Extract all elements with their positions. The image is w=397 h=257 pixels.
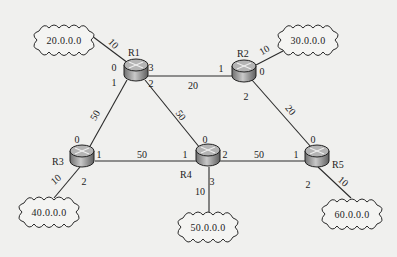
router-label: R4	[180, 169, 192, 180]
link-cost: 20	[188, 80, 198, 91]
router-R4	[196, 144, 220, 166]
network-cloud-50.0.0.0: 50.0.0.0	[178, 212, 238, 243]
network-address: 40.0.0.0	[32, 207, 67, 218]
port-number-R1: 1	[112, 77, 117, 88]
port-number-R4: 3	[210, 176, 215, 187]
port-number-R5: 0	[311, 134, 316, 145]
link-cost: 50	[254, 149, 264, 160]
link-cost: 50	[88, 108, 103, 122]
link-cost: 20	[283, 102, 298, 117]
link-cost: 10	[195, 186, 205, 197]
network-cloud-20.0.0.0: 20.0.0.0	[34, 25, 94, 56]
port-number-R5: 1	[294, 149, 299, 160]
network-address: 60.0.0.0	[335, 209, 370, 220]
network-cloud-40.0.0.0: 40.0.0.0	[19, 197, 79, 228]
networks-layer: 20.0.0.030.0.0.040.0.0.050.0.0.060.0.0.0	[19, 25, 382, 243]
router-label: R5	[332, 159, 344, 170]
router-R5	[305, 145, 329, 167]
link-R2-R5	[252, 80, 311, 147]
port-number-R4: 0	[203, 134, 208, 145]
network-address: 20.0.0.0	[47, 35, 82, 46]
port-number-R5: 2	[306, 179, 311, 190]
topology-canvas: 20.0.0.030.0.0.040.0.0.050.0.0.060.0.0.0…	[0, 0, 397, 257]
port-number-R3: 0	[75, 134, 80, 145]
router-label: R1	[128, 47, 140, 58]
port-number-R1: 2	[149, 78, 154, 89]
link-cost: 10	[257, 43, 271, 58]
network-cloud-30.0.0.0: 30.0.0.0	[278, 25, 338, 56]
router-label: R2	[237, 48, 249, 59]
link-cost: 50	[137, 149, 147, 160]
port-number-R3: 1	[97, 149, 102, 160]
port-number-R4: 1	[183, 149, 188, 160]
router-label: R3	[52, 156, 64, 167]
router-R1	[124, 59, 148, 81]
port-number-R1: 0	[112, 62, 117, 73]
port-number-R1: 3	[149, 62, 154, 73]
router-R2	[232, 60, 256, 82]
port-number-R2: 2	[244, 91, 249, 102]
link-cost: 50	[173, 108, 188, 123]
network-cloud-60.0.0.0: 60.0.0.0	[322, 199, 382, 230]
link-cost: 10	[48, 172, 63, 187]
network-address: 30.0.0.0	[291, 35, 326, 46]
network-diagram: 20.0.0.030.0.0.040.0.0.050.0.0.060.0.0.0…	[0, 0, 397, 257]
router-R3	[70, 145, 94, 167]
labels-layer: 1020505010205050101010R1R2R3R4R503121020…	[48, 36, 350, 197]
network-address: 50.0.0.0	[191, 222, 226, 233]
port-number-R3: 2	[82, 176, 87, 187]
port-number-R2: 0	[260, 66, 265, 77]
port-number-R2: 1	[219, 63, 224, 74]
port-number-R4: 2	[223, 149, 228, 160]
